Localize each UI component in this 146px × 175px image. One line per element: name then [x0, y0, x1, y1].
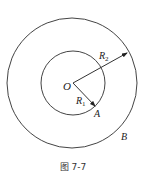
figure-caption: 图 7-7: [60, 162, 87, 172]
figure-7-7: O R2 R1 A B 图 7-7: [0, 0, 146, 175]
outer-circle: [7, 18, 137, 148]
point-b-label: B: [121, 131, 127, 142]
outer-radius-label: R2: [98, 50, 109, 63]
center-label-o: O: [63, 80, 71, 92]
inner-radius-label: R1: [75, 95, 86, 108]
concentric-circles-diagram: O R2 R1 A B 图 7-7: [0, 0, 146, 175]
point-a-label: A: [93, 108, 101, 119]
